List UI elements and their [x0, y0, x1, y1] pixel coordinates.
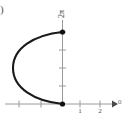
x-tick-label-2: 2	[95, 108, 105, 115]
y-axis-top-label-wrap: 2π	[56, 2, 68, 24]
x-tick-label-1: 1	[75, 108, 85, 115]
endpoint-top-dot	[60, 29, 65, 34]
y-axis-top-label: 2π	[58, 2, 66, 26]
arc-curve	[13, 32, 63, 104]
x-axis-variable-label: 0	[118, 99, 122, 106]
endpoint-origin-dot	[60, 101, 65, 106]
figure-canvas: ) 2π 1 2 0	[0, 0, 126, 122]
problem-corner-label: )	[0, 4, 4, 15]
